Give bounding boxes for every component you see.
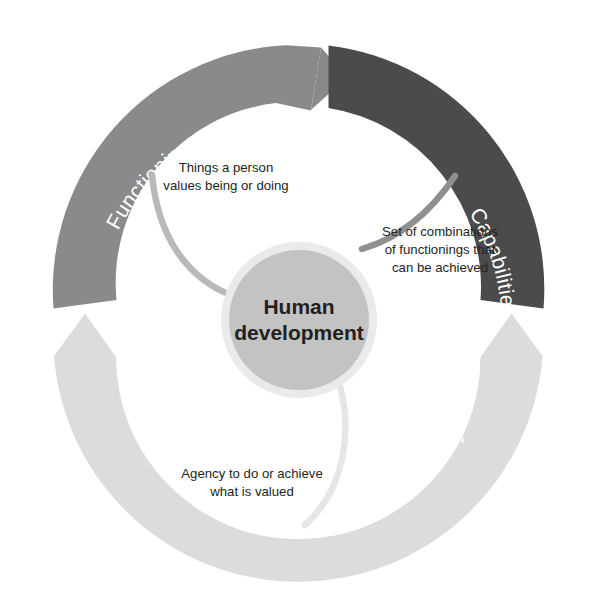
callout-capabilities-line2: of functionings that	[385, 242, 496, 257]
callout-functionings-line2: values being or doing	[163, 178, 288, 193]
callout-capabilities-line1: Set of combinations	[382, 224, 498, 239]
callout-functionings-line1: Things a person	[179, 160, 274, 175]
diagram-canvas: Functionings Capabilities Voice and auto…	[0, 0, 597, 609]
callout-voice-line2: what is valued	[209, 484, 294, 499]
center-title-line1: Human	[263, 295, 334, 318]
center-title-line2: development	[234, 321, 364, 344]
callout-voice: Agency to do or achieve what is valued	[181, 466, 323, 499]
connector-functionings	[152, 175, 233, 296]
human-development-diagram: Functionings Capabilities Voice and auto…	[0, 0, 597, 609]
center-node: Human development	[221, 242, 377, 398]
callout-capabilities: Set of combinations of functionings that…	[382, 224, 498, 275]
center-disc	[229, 250, 369, 390]
callout-voice-line1: Agency to do or achieve	[181, 466, 323, 481]
callout-capabilities-line3: can be achieved	[392, 260, 488, 275]
callout-functionings: Things a person values being or doing	[163, 160, 288, 193]
